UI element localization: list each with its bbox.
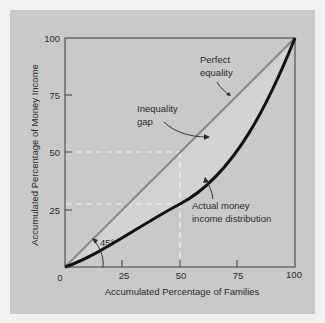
perfect-equality-arrow <box>217 82 229 95</box>
actual-distribution-label: Actual money <box>192 200 250 211</box>
lorenz-chart: 100 75 50 25 0 25 50 75 100 Accumulated … <box>0 0 325 323</box>
y-tick-25: 25 <box>49 205 60 216</box>
perfect-equality-label: Perfect <box>200 54 230 65</box>
x-tick-0: 0 <box>57 272 62 283</box>
actual-distribution-label-2: income distribution <box>192 213 271 224</box>
perfect-equality-label-2: equality <box>200 67 233 78</box>
y-axis-title: Accumulated Percentage of Money Income <box>29 64 40 246</box>
x-tick-75: 75 <box>233 270 244 281</box>
x-axis-title: Accumulated Percentage of Families <box>105 286 260 297</box>
inequality-gap-label-2: gap <box>137 116 153 127</box>
x-tick-25: 25 <box>119 270 130 281</box>
y-tick-50: 50 <box>49 147 60 158</box>
x-tick-100: 100 <box>286 269 302 280</box>
y-tick-100: 100 <box>44 33 60 44</box>
y-tick-75: 75 <box>49 90 60 101</box>
angle-label: 45° <box>100 237 115 248</box>
x-tick-50: 50 <box>176 270 187 281</box>
inequality-gap-label: Inequality <box>137 103 178 114</box>
